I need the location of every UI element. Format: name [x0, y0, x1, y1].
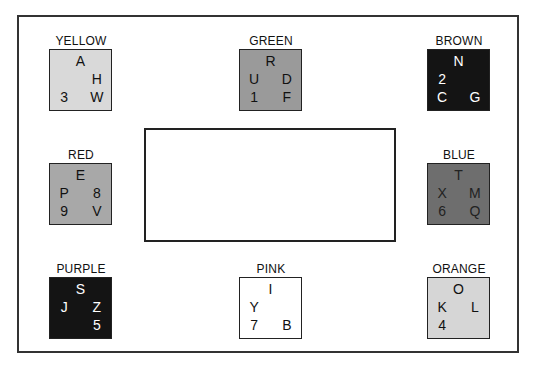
symbol: L	[467, 298, 483, 316]
symbol: Q	[467, 202, 483, 220]
symbol: D	[279, 70, 295, 88]
symbol: T	[450, 166, 466, 184]
symbol: 1	[246, 88, 262, 106]
symbol: C	[434, 88, 450, 106]
group-label: BROWN	[407, 35, 511, 47]
symbol: I	[262, 280, 278, 298]
symbol: Y	[246, 298, 262, 316]
symbol: 9	[56, 202, 72, 220]
symbol: A	[72, 52, 88, 70]
symbol: B	[279, 316, 295, 334]
symbol: 7	[246, 316, 262, 334]
symbol-box: EP89V	[49, 163, 112, 225]
group-label: PURPLE	[29, 263, 133, 275]
symbol: H	[89, 70, 105, 88]
symbol: 2	[434, 70, 450, 88]
symbol: G	[467, 88, 483, 106]
group-label: BLUE	[407, 149, 511, 161]
group-label: GREEN	[219, 35, 323, 47]
symbol: 3	[56, 88, 72, 106]
group-label: ORANGE	[407, 263, 511, 275]
symbol: E	[72, 166, 88, 184]
symbol-box: SJZ5	[49, 277, 112, 339]
symbol-box: AH3W	[49, 49, 112, 111]
center-empty-rectangle	[144, 128, 396, 242]
group-label: PINK	[219, 263, 323, 275]
group-label: RED	[29, 149, 133, 161]
group-label: YELLOW	[29, 35, 133, 47]
symbol: N	[450, 52, 466, 70]
symbol-box: IY7B	[239, 277, 302, 339]
symbol: 5	[89, 316, 105, 334]
symbol: F	[279, 88, 295, 106]
symbol: U	[246, 70, 262, 88]
symbol-box: OKL4	[427, 277, 490, 339]
symbol: O	[450, 280, 466, 298]
symbol: P	[56, 184, 72, 202]
symbol: X	[434, 184, 450, 202]
symbol-box: RUD1F	[239, 49, 302, 111]
symbol: R	[262, 52, 278, 70]
symbol: S	[72, 280, 88, 298]
symbol: Z	[89, 298, 105, 316]
symbol: W	[89, 88, 105, 106]
symbol: 8	[89, 184, 105, 202]
symbol-box: TXM6Q	[427, 163, 490, 225]
symbol: V	[89, 202, 105, 220]
symbol: 4	[434, 316, 450, 334]
symbol: J	[56, 298, 72, 316]
symbol: 6	[434, 202, 450, 220]
symbol: K	[434, 298, 450, 316]
symbol-box: N2CG	[427, 49, 490, 111]
symbol: M	[467, 184, 483, 202]
